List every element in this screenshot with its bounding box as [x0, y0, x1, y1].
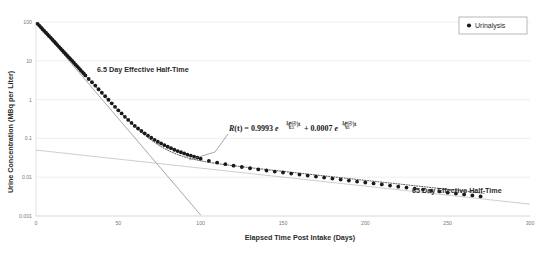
exp2-close: )t — [353, 121, 357, 128]
data-point — [207, 159, 211, 163]
data-point — [179, 150, 183, 154]
data-point — [130, 121, 134, 125]
data-point — [322, 176, 326, 180]
data-point — [405, 186, 409, 190]
data-point — [93, 84, 97, 88]
data-point — [215, 161, 219, 165]
data-point — [298, 173, 302, 177]
chart-legend[interactable]: Urinalysis — [459, 17, 527, 34]
data-point — [479, 195, 483, 199]
data-point — [133, 124, 137, 128]
data-point — [169, 146, 173, 150]
data-point — [223, 162, 227, 166]
equation-e-1: e — [275, 124, 279, 133]
data-point — [355, 180, 359, 184]
data-point — [116, 108, 120, 112]
data-point — [331, 177, 335, 181]
data-point — [380, 183, 384, 187]
data-point — [159, 142, 163, 146]
data-point — [189, 154, 193, 158]
data-point — [149, 136, 153, 140]
equation-coefficient-2: 0.0007 — [311, 124, 333, 133]
exp1-close: )t — [297, 121, 301, 128]
x-tick-label: 50 — [115, 220, 121, 226]
equation-lhs-arg: (t) = — [234, 124, 251, 133]
data-point — [232, 164, 236, 168]
data-point — [314, 175, 318, 179]
fast-half-time-annotation: 6.5 Day Effective Half-Time — [97, 65, 189, 74]
data-point — [306, 174, 310, 178]
y-axis-title: Urine Concentration (MBq per Liter) — [6, 70, 15, 193]
data-point — [396, 185, 400, 189]
data-point — [146, 134, 150, 138]
data-point — [90, 80, 94, 84]
svg-text:+ 0.0007 e: + 0.0007 e — [304, 124, 339, 133]
data-point — [339, 178, 343, 182]
data-point — [265, 169, 269, 173]
data-point — [372, 182, 376, 186]
x-tick-label: 100 — [196, 220, 205, 226]
y-tick-label: 1 — [29, 97, 32, 103]
urinalysis-retention-chart: 0.0010.010.1110100 050100150200250300 Ur… — [0, 0, 542, 261]
data-point — [199, 157, 203, 161]
data-point — [176, 149, 180, 153]
data-point — [256, 167, 260, 171]
data-point — [388, 184, 392, 188]
exp2-denominator: 65 — [345, 125, 349, 130]
data-point — [100, 91, 104, 95]
y-tick-label: 10 — [26, 58, 32, 64]
y-tick-label: 100 — [23, 19, 32, 25]
x-tick-label: 0 — [35, 220, 38, 226]
y-tick-label: 0.1 — [25, 135, 32, 141]
data-point — [84, 74, 88, 78]
chart-figure: 0.0010.010.1110100 050100150200250300 Ur… — [0, 0, 542, 261]
data-point — [123, 115, 127, 119]
data-point — [110, 101, 114, 105]
data-point — [163, 143, 167, 147]
data-point — [97, 87, 101, 91]
data-point — [113, 105, 117, 109]
y-tick-label: 0.001 — [19, 213, 32, 219]
x-tick-label: 300 — [526, 220, 535, 226]
data-point — [156, 140, 160, 144]
legend-item-urinalysis: Urinalysis — [475, 22, 506, 30]
data-point — [139, 129, 143, 133]
x-tick-label: 150 — [279, 220, 288, 226]
data-point — [153, 138, 157, 142]
slow-half-time-annotation: 65 Day Effective Half-Time — [412, 186, 502, 195]
legend-marker-icon — [467, 23, 471, 27]
exp1-denominator: 6.5 — [289, 125, 294, 130]
data-point — [103, 94, 107, 98]
x-tick-label: 200 — [361, 220, 370, 226]
data-point — [289, 172, 293, 176]
data-point — [87, 77, 91, 81]
data-point — [107, 98, 111, 102]
data-point — [281, 171, 285, 175]
equation-coefficient-1: 0.9993 — [251, 124, 273, 133]
data-point — [186, 153, 190, 157]
data-point — [143, 131, 147, 135]
data-point — [273, 170, 277, 174]
data-point — [120, 112, 124, 116]
x-tick-label: 250 — [443, 220, 452, 226]
data-point — [363, 181, 367, 185]
svg-text:R(t) = 0.9993 e: R(t) = 0.9993 e — [228, 124, 279, 133]
data-point — [172, 148, 176, 152]
data-point — [136, 127, 140, 131]
data-point — [240, 165, 244, 169]
data-point — [182, 152, 186, 156]
data-point — [248, 166, 252, 170]
y-tick-label: 0.01 — [22, 174, 32, 180]
x-axis-title: Elapsed Time Post Intake (Days) — [245, 233, 356, 242]
equation-e-2: e — [335, 124, 339, 133]
data-point — [166, 145, 170, 149]
data-point — [126, 118, 130, 122]
data-point — [347, 179, 351, 183]
